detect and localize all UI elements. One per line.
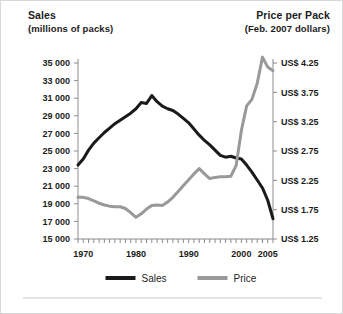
left-axis-tick-label: 17 000 (42, 217, 70, 227)
x-axis: 19701980199020002005 (73, 239, 277, 259)
left-axis-tick-label: 15 000 (42, 234, 70, 244)
right-axis-tick-label: US$ 3.75 (281, 88, 319, 98)
x-axis-tick-label: 2005 (258, 249, 278, 259)
legend-label-sales: Sales (142, 273, 167, 284)
series-line-price (78, 57, 273, 217)
right-axis-tick-label: US$ 3.25 (281, 117, 319, 127)
left-axis-tick-label: 31 000 (42, 93, 70, 103)
right-axis-tick-label: US$ 1.75 (281, 205, 319, 215)
data-series-group (78, 57, 273, 219)
x-axis-tick-label: 1970 (73, 249, 93, 259)
left-axis-tick-label: 35 000 (42, 58, 70, 68)
left-axis-tick-label: 27 000 (42, 129, 70, 139)
chart-plot: 15 00017 00019 00021 00023 00025 00027 0… (1, 1, 343, 314)
left-axis-tick-label: 33 000 (42, 76, 70, 86)
left-axis-tick-label: 19 000 (42, 199, 70, 209)
right-axis: US$ 1.25US$ 1.75US$ 2.25US$ 2.75US$ 3.25… (273, 58, 319, 244)
chart-legend: SalesPrice (106, 273, 257, 284)
right-axis-tick-label: US$ 4.25 (281, 58, 319, 68)
right-axis-tick-label: US$ 2.75 (281, 146, 319, 156)
left-axis-tick-label: 23 000 (42, 164, 70, 174)
left-axis: 15 00017 00019 00021 00023 00025 00027 0… (42, 58, 78, 244)
left-axis-tick-label: 21 000 (42, 181, 70, 191)
x-axis-tick-label: 1980 (126, 249, 146, 259)
right-axis-tick-label: US$ 2.25 (281, 176, 319, 186)
legend-label-price: Price (234, 273, 257, 284)
x-axis-tick-label: 2000 (231, 249, 251, 259)
left-axis-tick-label: 29 000 (42, 111, 70, 121)
right-axis-tick-label: US$ 1.25 (281, 234, 319, 244)
x-axis-tick-label: 1990 (179, 249, 199, 259)
chart-figure: Sales (millions of packs) Price per Pack… (0, 0, 343, 314)
left-axis-tick-label: 25 000 (42, 146, 70, 156)
